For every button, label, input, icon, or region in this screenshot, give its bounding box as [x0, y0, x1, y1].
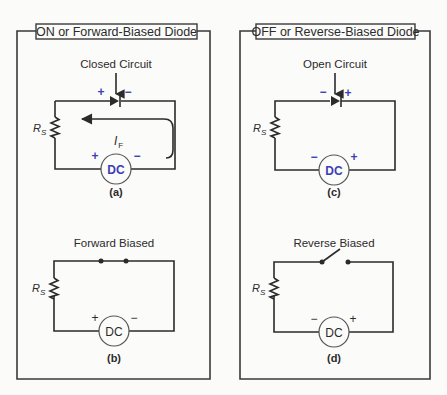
- source-plus-sign: +: [350, 150, 357, 164]
- panel-title: OFF or Reverse-Biased Diode: [251, 25, 419, 39]
- panel-reverse-biased: OFF or Reverse-Biased Diode Open Circuit…: [240, 24, 430, 379]
- resistor-label: RS: [33, 122, 47, 137]
- dc-source-label: DC: [107, 163, 125, 177]
- source-minus-sign: −: [310, 150, 317, 164]
- source-minus-sign: −: [133, 149, 140, 163]
- source-plus-sign: +: [91, 311, 98, 325]
- resistor-label: RS: [32, 282, 46, 297]
- dc-source-label: DC: [325, 164, 343, 178]
- diode-anode-sign: −: [319, 85, 326, 99]
- diode-anode-sign: +: [97, 85, 104, 99]
- dc-source-label: DC: [325, 326, 343, 340]
- resistor-icon: [271, 117, 279, 138]
- open-switch-blade-icon: [322, 249, 340, 262]
- diode-cathode-sign: +: [344, 86, 351, 100]
- diode-icon: [331, 95, 341, 107]
- resistor-icon: [50, 278, 58, 299]
- diode-cathode-sign: −: [124, 85, 131, 99]
- diagram-caption: (b): [107, 352, 121, 364]
- source-minus-sign: −: [130, 311, 137, 325]
- diagram-label: Forward Biased: [74, 237, 155, 249]
- resistor-icon: [51, 117, 59, 138]
- diagram-caption: (d): [327, 352, 341, 364]
- resistor-label: RS: [253, 122, 267, 137]
- source-plus-sign: +: [91, 149, 98, 163]
- diagram-a-closed-circuit: Closed Circuit RS + − IF DC + − (a): [33, 58, 175, 198]
- diagram-caption: (c): [327, 186, 341, 198]
- source-plus-sign: +: [349, 312, 356, 326]
- diagram-label: Reverse Biased: [293, 237, 374, 249]
- panel-title: ON or Forward-Biased Diode: [36, 25, 197, 39]
- switch-contact-icon: [346, 260, 351, 265]
- dc-source-label: DC: [105, 325, 123, 339]
- diagram-caption: (a): [109, 186, 123, 198]
- resistor-label: RS: [252, 282, 266, 297]
- diagram-b-forward-biased-switch: Forward Biased RS DC + − (b): [32, 237, 174, 364]
- diagram-label: Closed Circuit: [80, 58, 152, 70]
- diode-bias-figure: ON or Forward-Biased Diode Closed Circui…: [0, 0, 447, 395]
- diagram-d-reverse-biased-switch: Reverse Biased RS DC − + (d): [252, 237, 393, 364]
- panel-forward-biased: ON or Forward-Biased Diode Closed Circui…: [17, 24, 210, 379]
- current-label: IF: [114, 134, 123, 150]
- switch-contact-icon: [124, 259, 129, 264]
- resistor-icon: [270, 278, 278, 299]
- source-minus-sign: −: [310, 312, 317, 326]
- diagram-label: Open Circuit: [303, 58, 368, 70]
- diagram-c-open-circuit: Open Circuit RS − + DC − + (c): [253, 58, 395, 198]
- diode-icon: [110, 95, 120, 107]
- switch-contact-icon: [99, 259, 104, 264]
